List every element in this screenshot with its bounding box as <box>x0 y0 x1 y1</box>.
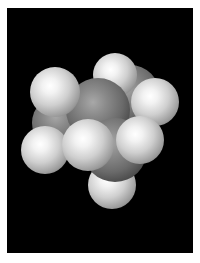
hydrogen-atom-front-right <box>116 116 164 164</box>
hydrogen-atom-front-left <box>62 119 114 171</box>
hydrogen-atom-top-left <box>30 67 80 117</box>
molecule-image-frame: Space-filling (CPK) molecular model of a… <box>7 8 193 253</box>
